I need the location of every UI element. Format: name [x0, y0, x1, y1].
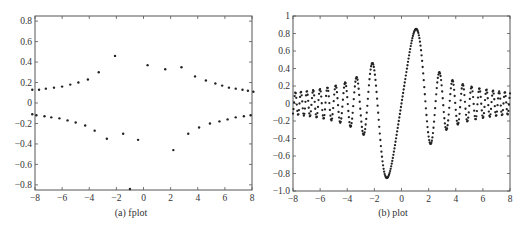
data-point	[311, 97, 313, 99]
data-point	[383, 171, 385, 173]
data-point	[424, 93, 426, 95]
data-point	[365, 123, 367, 125]
data-point	[397, 123, 399, 125]
data-point	[209, 122, 211, 124]
data-point	[430, 142, 432, 144]
data-point	[460, 93, 462, 95]
data-point	[348, 116, 350, 118]
data-point	[407, 61, 409, 63]
data-point	[373, 69, 375, 71]
data-point	[370, 65, 372, 67]
y-tick-label: −0.6	[273, 151, 290, 161]
data-point	[405, 74, 407, 76]
data-point	[441, 90, 443, 92]
data-point	[406, 67, 408, 69]
data-point	[296, 103, 298, 105]
data-point	[487, 97, 489, 99]
data-point	[317, 99, 319, 101]
data-point	[341, 112, 343, 114]
data-point	[403, 85, 405, 87]
data-point	[198, 126, 200, 128]
data-point	[424, 100, 426, 102]
data-point	[394, 144, 396, 146]
data-point	[490, 108, 492, 110]
data-point	[77, 81, 79, 83]
data-point	[423, 86, 425, 88]
data-point	[479, 90, 481, 92]
data-point	[459, 106, 461, 108]
data-point	[372, 63, 374, 65]
data-point	[398, 120, 400, 122]
data-point	[496, 104, 498, 106]
data-point	[458, 113, 460, 115]
data-point	[301, 100, 303, 102]
data-point	[172, 149, 174, 151]
data-point	[335, 87, 337, 89]
data-point	[321, 102, 323, 104]
data-point	[302, 107, 304, 109]
data-point	[406, 64, 408, 66]
data-point	[455, 115, 457, 117]
data-point	[364, 128, 366, 130]
y-tick-label: 0.8	[278, 29, 290, 39]
data-point	[398, 116, 400, 118]
data-point	[408, 51, 410, 53]
data-point	[325, 95, 327, 97]
data-point	[74, 121, 76, 123]
data-point	[432, 127, 434, 129]
data-point	[393, 147, 395, 149]
data-point	[359, 108, 361, 110]
data-point	[478, 87, 480, 89]
chart-fplot: −8−6−4−202468−0.8−0.6−0.4−0.200.20.40.60…	[0, 0, 262, 235]
x-tick-label: −2	[111, 193, 121, 203]
data-point	[205, 79, 207, 81]
data-point	[408, 54, 410, 56]
data-point	[331, 117, 333, 119]
data-point	[467, 117, 469, 119]
data-point	[493, 92, 495, 94]
data-point	[394, 141, 396, 143]
data-point	[35, 114, 37, 116]
data-point	[252, 91, 254, 93]
data-point	[303, 113, 305, 115]
data-point	[418, 34, 420, 36]
data-point	[464, 108, 466, 110]
data-point	[487, 104, 489, 106]
data-point	[480, 96, 482, 98]
data-point	[499, 92, 501, 94]
data-point	[354, 85, 356, 87]
data-point	[411, 39, 413, 41]
data-point	[480, 103, 482, 105]
data-point	[306, 90, 308, 92]
y-tick-label: 0.6	[278, 46, 290, 56]
data-point	[484, 99, 486, 101]
data-point	[420, 49, 422, 51]
data-point	[84, 124, 86, 126]
data-point	[420, 54, 422, 56]
data-point	[426, 126, 428, 128]
data-point	[367, 91, 369, 93]
data-point	[489, 113, 491, 115]
data-point	[431, 140, 433, 142]
data-point	[399, 109, 401, 111]
x-tick-label: −4	[84, 193, 94, 203]
data-point	[375, 85, 377, 87]
data-point	[502, 102, 504, 104]
data-point	[468, 105, 470, 107]
data-point	[247, 90, 249, 92]
data-point	[367, 98, 369, 100]
data-point	[396, 130, 398, 132]
data-point	[359, 101, 361, 103]
data-point	[501, 113, 503, 115]
data-point	[434, 107, 436, 109]
data-point	[443, 117, 445, 119]
data-point	[425, 107, 427, 109]
data-point	[447, 119, 449, 121]
data-point	[309, 114, 311, 116]
data-point	[507, 110, 509, 112]
data-point	[316, 112, 318, 114]
data-point	[363, 133, 365, 135]
y-tick-label: −0.4	[273, 134, 290, 144]
data-point	[468, 111, 470, 113]
data-point	[465, 114, 467, 116]
